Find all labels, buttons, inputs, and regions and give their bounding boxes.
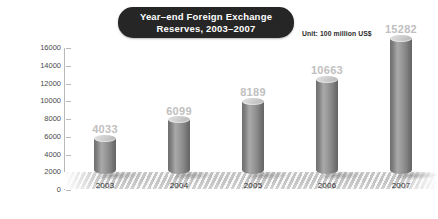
chart-title-line-1: Year–end Foreign Exchange <box>140 11 272 23</box>
bar-top-ellipse <box>390 35 412 42</box>
y-tick: 6000 <box>0 132 72 142</box>
y-tick: 4000 <box>0 150 72 160</box>
bar-value-label: 10663 <box>311 64 343 76</box>
x-axis-label: 2005 <box>220 181 286 190</box>
bar-item[interactable]: 4033 <box>72 123 138 174</box>
y-tick-label: 6000 <box>44 132 61 142</box>
x-axis-label: 2006 <box>294 181 360 190</box>
bar-body <box>316 79 338 174</box>
bar-value-label: 6099 <box>166 105 192 117</box>
y-tick-label: 12000 <box>40 79 61 89</box>
bar-value-label: 4033 <box>92 123 118 135</box>
x-axis-label: 2007 <box>368 181 434 190</box>
bar-series: 4033200360992004818920051066320061528220… <box>64 44 438 192</box>
y-tick-label: 16000 <box>40 43 61 53</box>
bar-body <box>242 101 264 174</box>
bar-cylinder <box>94 138 116 174</box>
bar-item[interactable]: 8189 <box>220 86 286 174</box>
unit-note: Unit: 100 million US$ <box>302 30 372 37</box>
bar-item[interactable]: 15282 <box>368 23 434 174</box>
bar-body <box>390 38 412 174</box>
y-tick-label: 14000 <box>40 61 61 71</box>
y-tick-label: 10000 <box>40 96 61 106</box>
bar-item[interactable]: 6099 <box>146 105 212 174</box>
bar-top-ellipse <box>242 98 264 105</box>
bar-item[interactable]: 10663 <box>294 64 360 174</box>
y-tick: 14000 <box>0 61 72 71</box>
bar-top-ellipse <box>316 76 338 83</box>
bar-body <box>94 138 116 174</box>
y-tick-label: 0 <box>57 185 61 195</box>
bar-cylinder <box>242 101 264 174</box>
y-tick-label: 4000 <box>44 150 61 160</box>
y-tick: 0 <box>0 185 72 195</box>
y-tick: 12000 <box>0 79 72 89</box>
chart-title-banner: Year–end Foreign Exchange Reserves, 2003… <box>118 7 294 38</box>
bar-cylinder <box>316 79 338 174</box>
y-tick-label: 2000 <box>44 167 61 177</box>
bar-top-ellipse <box>94 135 116 142</box>
bar-value-label: 8189 <box>240 86 266 98</box>
x-axis-label: 2003 <box>72 181 138 190</box>
bar-cylinder <box>168 120 190 174</box>
y-tick: 10000 <box>0 96 72 106</box>
bar-value-label: 15282 <box>385 23 417 35</box>
chart-title-line-2: Reserves, 2003–2007 <box>157 23 256 35</box>
bar-chart: Year–end Foreign Exchange Reserves, 2003… <box>0 0 438 219</box>
x-axis-label: 2004 <box>146 181 212 190</box>
y-tick: 16000 <box>0 43 72 53</box>
y-tick: 8000 <box>0 114 72 124</box>
bar-cylinder <box>390 38 412 174</box>
y-tick: 2000 <box>0 167 72 177</box>
y-tick-label: 8000 <box>44 114 61 124</box>
bar-body <box>168 120 190 174</box>
plot-area: 1600014000120001000080006000400020000 40… <box>0 44 438 192</box>
bar-top-ellipse <box>168 116 190 123</box>
